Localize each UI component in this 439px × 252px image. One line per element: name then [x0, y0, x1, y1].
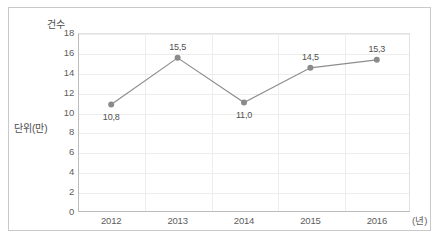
x-axis-tick-labels: 20122013201420152016	[78, 215, 410, 231]
x-axis-tick-label: 2016	[347, 215, 407, 227]
y-axis-tick-label: 6	[30, 147, 74, 157]
y-axis-tick-label: 10	[30, 108, 74, 118]
y-axis-tick-label: 0	[30, 207, 74, 217]
x-axis-tick-label: 2012	[81, 215, 141, 227]
figure-caption	[0, 236, 439, 245]
data-point-marker	[108, 102, 114, 108]
data-point-marker	[175, 55, 181, 61]
chart-figure: 건수 단위(만) (년) 181614121086420 20122013201…	[0, 0, 439, 252]
y-axis-tick-label: 12	[30, 88, 74, 98]
y-axis-tick-label: 14	[30, 68, 74, 78]
y-axis-tick-label: 4	[30, 167, 74, 177]
y-axis-tick-label: 8	[30, 127, 74, 137]
data-point-marker	[241, 100, 247, 106]
y-axis-tick-labels: 181614121086420	[26, 33, 74, 212]
data-point-label: 11,0	[219, 110, 269, 120]
data-point-label: 15,5	[153, 42, 203, 52]
y-axis-tick-label: 2	[30, 187, 74, 197]
x-axis-tick-label: 2013	[148, 215, 208, 227]
x-axis-tick-label: 2015	[280, 215, 340, 227]
data-point-marker	[374, 57, 380, 63]
data-point-label: 10,8	[86, 112, 136, 122]
line-series	[78, 33, 410, 212]
x-axis-unit-label: (년)	[412, 215, 427, 227]
series-line	[111, 58, 377, 105]
data-point-marker	[307, 65, 313, 71]
y-axis-tick-label: 16	[30, 48, 74, 58]
y-axis-tick-label: 18	[30, 28, 74, 38]
x-axis-tick-label: 2014	[214, 215, 274, 227]
data-point-label: 15,3	[352, 44, 402, 54]
data-point-label: 14,5	[285, 52, 335, 62]
